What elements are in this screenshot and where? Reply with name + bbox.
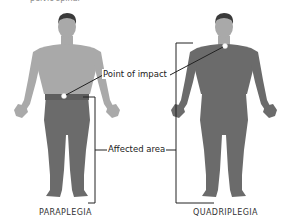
spinal-injury-diagram: pelvic spinal (0, 0, 288, 224)
paraplegia-caption: PARAPLEGIA (39, 208, 92, 217)
paraplegia-figure (14, 13, 120, 203)
quadriplegia-figure (171, 13, 277, 203)
point-of-impact-label: Point of impact (102, 69, 168, 79)
paraplegia-affected-legs (44, 92, 90, 197)
quadriplegia-affected-body (171, 36, 277, 197)
affected-area-label: Affected area (107, 144, 166, 154)
quadriplegia-caption: QUADRIPLEGIA (193, 208, 258, 217)
paraplegia-impact-dot (62, 94, 67, 99)
quadriplegia-impact-dot (223, 44, 228, 49)
figures-svg (0, 0, 288, 224)
